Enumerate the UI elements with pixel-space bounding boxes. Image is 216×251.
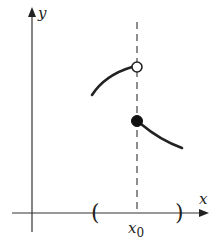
function-diagram: y x ( ) x0 (0, 0, 216, 251)
interval-right-bracket: ) (175, 200, 184, 225)
x0-label-subscript: 0 (136, 226, 144, 240)
y-axis-label: y (37, 4, 47, 22)
right-branch-curve (141, 124, 182, 148)
left-branch-curve (92, 67, 132, 95)
x0-label: x0 (128, 219, 144, 240)
filled-circle-marker (132, 116, 143, 127)
open-circle-marker (132, 62, 142, 72)
x-axis-label: x (199, 190, 208, 208)
interval-left-bracket: ( (91, 200, 100, 225)
